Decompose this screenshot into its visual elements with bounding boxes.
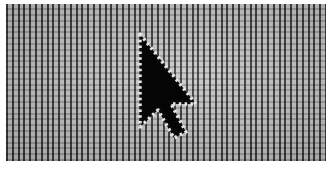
arrow-pointer-icon xyxy=(134,32,204,142)
pixel-grid-photo xyxy=(6,4,326,161)
